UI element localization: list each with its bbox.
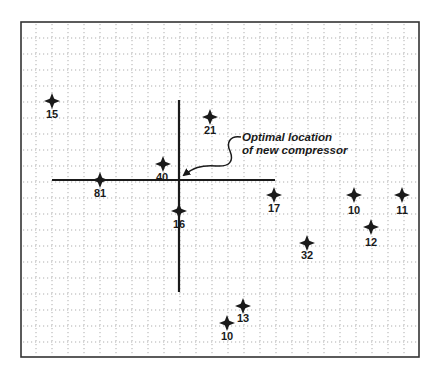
marker-center-dot (176, 208, 182, 214)
demand-point-p10b: 10 (219, 315, 235, 342)
point-weight-label: 17 (268, 202, 280, 214)
callout-text-line1: Optimal location (242, 131, 332, 143)
demand-point-p32: 32 (299, 235, 315, 261)
grid (23, 24, 417, 355)
marker-center-dot (160, 161, 166, 167)
marker-center-dot (368, 224, 374, 230)
point-weight-label: 15 (46, 108, 58, 120)
point-weight-label: 21 (204, 124, 216, 136)
demand-point-p81: 81 (92, 172, 108, 199)
point-weight-label: 32 (301, 249, 313, 261)
marker-center-dot (304, 240, 310, 246)
demand-point-p10a: 10 (346, 187, 362, 216)
marker-center-dot (271, 192, 277, 198)
demand-point-p12: 12 (363, 219, 379, 248)
demand-point-p21: 21 (202, 109, 218, 136)
demand-point-p13: 13 (235, 298, 251, 324)
point-weight-label: 12 (365, 236, 377, 248)
demand-point-p16: 16 (171, 203, 187, 230)
demand-point-p17: 17 (266, 187, 282, 214)
demand-point-p15: 15 (44, 93, 60, 120)
marker-center-dot (399, 192, 405, 198)
marker-center-dot (97, 177, 103, 183)
callout-text-line2: of new compressor (242, 144, 348, 156)
demand-points: 152140811617101112321310 (44, 93, 410, 342)
callout-arrow-icon (184, 137, 241, 175)
marker-center-dot (224, 320, 230, 326)
point-weight-label: 10 (221, 330, 233, 342)
point-weight-label: 13 (237, 312, 249, 324)
point-weight-label: 40 (156, 171, 168, 183)
point-weight-label: 16 (173, 218, 185, 230)
demand-point-p11: 11 (394, 187, 410, 216)
point-weight-label: 10 (348, 204, 360, 216)
point-weight-label: 11 (396, 204, 408, 216)
marker-center-dot (49, 98, 55, 104)
marker-center-dot (240, 303, 246, 309)
compressor-location-diagram: 152140811617101112321310 Optimal locatio… (0, 0, 441, 373)
marker-center-dot (351, 192, 357, 198)
marker-center-dot (207, 114, 213, 120)
diagram-frame (21, 22, 419, 357)
point-weight-label: 81 (94, 187, 106, 199)
